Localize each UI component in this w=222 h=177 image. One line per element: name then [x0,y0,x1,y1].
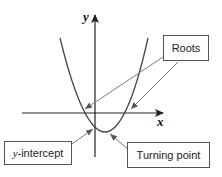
roots-label: Roots [172,42,201,54]
roots-arrow-right [131,62,178,109]
y-intercept-label: y-intercept [13,147,64,159]
parabola-curve [60,38,148,132]
y-axis-label: y [83,9,89,25]
y-intercept-arrow [72,129,93,144]
roots-label-box: Roots [163,35,209,61]
turning-point-label-box: Turning point [127,142,210,168]
y-intercept-label-box: y-intercept [4,141,72,165]
turning-point-arrow [110,134,128,149]
turning-point-label: Turning point [137,149,201,161]
x-axis-label: x [157,114,164,130]
roots-arrow-left [85,57,163,109]
y-intercept-text: -intercept [18,147,64,159]
